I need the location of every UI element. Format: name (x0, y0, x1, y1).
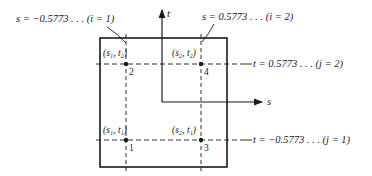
gauss-point-1 (124, 138, 128, 142)
t-axis-label: t (167, 7, 171, 19)
gauss-point-2 (124, 62, 128, 66)
point-label-4: (s₂, t₂) (172, 48, 196, 59)
annotation-s-i1: s = −0.5773 . . . (i = 1) (16, 13, 115, 25)
gauss-quadrature-diagram: t s (s₁, t₁) (s₁, t₂) (s₂, t₁) (s₂, t₂) … (0, 0, 372, 176)
annotation-t-j2: t = 0.5773 . . . (j = 2) (253, 58, 344, 70)
point-label-3: (s₂, t₁) (172, 125, 196, 136)
annotation-s-i2: s = 0.5773 . . . (i = 2) (202, 11, 294, 23)
gauss-point-3 (199, 138, 203, 142)
gauss-point-4 (199, 62, 203, 66)
point-label-1: (s₁, t₁) (103, 125, 127, 136)
s-axis-label: s (267, 95, 271, 107)
leader-s2 (202, 24, 214, 42)
point-number-2: 2 (129, 67, 134, 77)
annotation-t-j1: t = −0.5773 . . . (j = 1) (253, 134, 351, 146)
point-number-1: 1 (129, 143, 134, 153)
point-number-3: 3 (204, 143, 209, 153)
point-number-4: 4 (204, 67, 209, 77)
point-label-2: (s₁, t₂) (103, 48, 127, 59)
leader-s1 (107, 27, 126, 43)
